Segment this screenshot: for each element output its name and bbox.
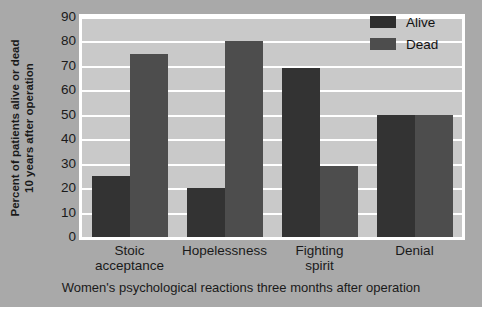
x-tick-line2: spirit xyxy=(272,258,367,273)
y-tick-50: 50 xyxy=(61,108,76,122)
bar-dead xyxy=(320,166,358,237)
y-tick-90: 90 xyxy=(61,10,76,24)
x-axis-tick-labels: StoicacceptanceHopelessnessFightingspiri… xyxy=(79,243,465,277)
legend-item-dead: Dead xyxy=(356,33,468,55)
x-tick-line1: Denial xyxy=(367,243,462,258)
y-tick-60: 60 xyxy=(61,84,76,98)
y-tick-20: 20 xyxy=(61,181,76,195)
x-tick-line2: acceptance xyxy=(82,258,177,273)
x-tick-line1: Fighting xyxy=(272,243,367,258)
y-tick-10: 10 xyxy=(61,206,76,220)
bar-alive xyxy=(92,176,130,237)
legend-label-alive: Alive xyxy=(406,15,435,30)
bar-alive xyxy=(187,188,225,237)
y-axis-title-line2: 10 years after operation xyxy=(22,39,36,216)
bar-dead xyxy=(225,41,263,237)
x-tick-label: Fightingspirit xyxy=(272,243,367,273)
x-axis-title: Women's psychological reactions three mo… xyxy=(0,280,482,295)
y-axis-title: Percent of patients alive or dead 10 yea… xyxy=(2,8,42,248)
bar-dead xyxy=(415,115,453,237)
legend-swatch-dead-icon xyxy=(370,38,396,50)
bar-alive xyxy=(377,115,415,237)
y-tick-80: 80 xyxy=(61,35,76,49)
y-tick-30: 30 xyxy=(61,157,76,171)
x-tick-label: Hopelessness xyxy=(177,243,272,258)
x-tick-label: Stoicacceptance xyxy=(82,243,177,273)
bar-alive xyxy=(282,68,320,237)
legend-swatch-alive-icon xyxy=(370,16,396,28)
legend-label-dead: Dead xyxy=(406,37,438,52)
bar-group xyxy=(92,17,168,237)
bar-dead xyxy=(130,54,168,237)
y-axis-tick-labels: 0102030405060708090 xyxy=(44,14,76,240)
y-tick-70: 70 xyxy=(61,59,76,73)
x-tick-line1: Stoic xyxy=(82,243,177,258)
legend-item-alive: Alive xyxy=(356,11,468,33)
x-tick-label: Denial xyxy=(367,243,462,258)
y-axis-title-line1: Percent of patients alive or dead xyxy=(9,39,21,216)
chart-figure: Percent of patients alive or dead 10 yea… xyxy=(0,0,482,307)
legend: Alive Dead xyxy=(352,8,472,58)
y-tick-0: 0 xyxy=(68,230,76,244)
y-tick-40: 40 xyxy=(61,132,76,146)
bar-group xyxy=(187,17,263,237)
bar-group xyxy=(282,17,358,237)
x-tick-line1: Hopelessness xyxy=(177,243,272,258)
